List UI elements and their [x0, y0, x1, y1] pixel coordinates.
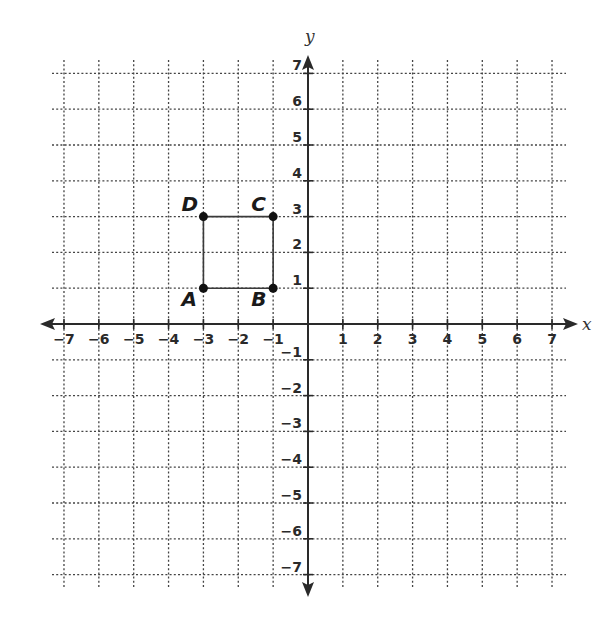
- point-label-c: C: [251, 192, 266, 216]
- y-axis-label: y: [304, 26, 315, 46]
- data-points: ABCD: [179, 192, 277, 312]
- y-tick-label: −3: [281, 415, 302, 431]
- y-tick-label: 2: [292, 236, 302, 252]
- y-tick-label: −5: [281, 487, 302, 503]
- x-tick-label: 6: [512, 331, 522, 347]
- x-tick-label: 3: [408, 331, 418, 347]
- x-tick-label: 1: [338, 331, 348, 347]
- y-tick-label: −1: [281, 344, 302, 360]
- y-tick-label: 5: [292, 129, 302, 145]
- x-tick-label: 2: [373, 331, 383, 347]
- x-axis-label: x: [582, 314, 592, 334]
- y-tick-label: 1: [292, 272, 302, 288]
- point-a: [199, 284, 208, 293]
- tick-marks: −7−6−5−4−3−2−11234567−7−6−5−4−3−2−112345…: [53, 57, 557, 574]
- point-d: [199, 212, 208, 221]
- point-label-b: B: [251, 287, 266, 311]
- y-tick-label: 4: [292, 165, 302, 181]
- y-tick-label: 6: [292, 93, 302, 109]
- x-tick-label: −3: [193, 331, 214, 347]
- coordinate-plane: x y −7−6−5−4−3−2−11234567−7−6−5−4−3−2−11…: [0, 0, 613, 638]
- y-tick-label: −6: [281, 523, 302, 539]
- x-tick-label: −4: [158, 331, 180, 347]
- point-b: [269, 284, 278, 293]
- point-label-d: D: [181, 192, 198, 216]
- x-tick-label: 5: [477, 331, 487, 347]
- point-c: [269, 212, 278, 221]
- y-tick-label: −4: [281, 451, 303, 467]
- y-tick-label: 3: [292, 201, 302, 217]
- x-tick-label: 4: [443, 331, 453, 347]
- y-tick-label: −2: [281, 380, 302, 396]
- axes: x y: [40, 26, 592, 597]
- y-tick-label: 7: [292, 57, 302, 73]
- x-tick-label: −7: [53, 331, 74, 347]
- x-tick-label: −6: [88, 331, 109, 347]
- x-tick-label: −5: [123, 331, 144, 347]
- x-tick-label: −2: [228, 331, 249, 347]
- x-tick-label: 7: [547, 331, 557, 347]
- point-label-a: A: [179, 287, 196, 311]
- y-tick-label: −7: [281, 559, 302, 575]
